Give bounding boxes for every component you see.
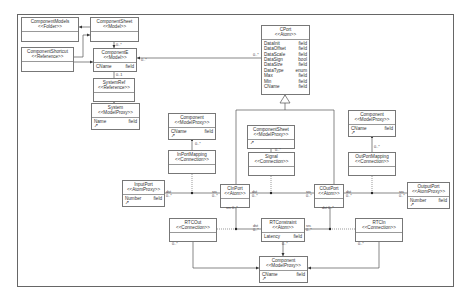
attribute-type: field: [129, 119, 137, 124]
class-header: RTCIn<<Connection>>: [356, 219, 402, 233]
proxy-arrow-icon: ↗: [125, 201, 162, 205]
class-stereotype: <<Connection>>: [357, 225, 401, 230]
class-stereotype: <<Connection>>: [350, 159, 394, 164]
class-header: Component<<ModelProxy>>: [260, 257, 307, 271]
multiplicity-label: 0..*: [306, 228, 312, 232]
multiplicity-label: 0..*: [306, 194, 312, 198]
class-coutport[interactable]: COutPort<<Atom>>: [314, 184, 344, 208]
class-componentmodels[interactable]: ComponentModels<<Folder>>: [21, 17, 79, 42]
multiplicity-label: 0..*: [275, 148, 281, 152]
class-systemref[interactable]: SystemRef<<Reference>>: [93, 78, 135, 102]
attribute-name: Latency: [264, 234, 280, 239]
class-header: SystemRef<<Reference>>: [94, 79, 134, 93]
multiplicity-label: 0..*: [252, 194, 258, 198]
attribute-name: CName: [264, 84, 280, 89]
class-stereotype: <<Atom>>: [263, 32, 308, 37]
class-header: InputPort<<AtomProxy>>: [123, 181, 164, 195]
multiplicity-label: 0..*: [195, 142, 201, 146]
class-rtcin[interactable]: RTCIn<<Connection>>: [355, 218, 403, 242]
attribute-type: field: [439, 198, 447, 203]
class-stereotype: <<Reference>>: [95, 85, 133, 90]
class-header: ComponentShortcut<<Reference>>: [22, 48, 73, 62]
class-stereotype: <<Connection>>: [171, 225, 215, 230]
class-componentsheet_mp[interactable]: ComponentSheet<<ModelProxy>>↗: [247, 125, 295, 149]
class-componentsheet_model[interactable]: ComponentSheet<<Model>>: [90, 17, 139, 42]
multiplicity-label: 0..*: [253, 53, 259, 57]
class-stereotype: <<ModelProxy>>: [93, 110, 138, 115]
class-attributes: Numberfield↗: [408, 197, 449, 208]
multiplicity-label: dst 0..*: [322, 206, 334, 210]
proxy-arrow-icon: ↗: [262, 277, 305, 281]
class-attributes: [349, 167, 395, 175]
class-rtcout[interactable]: RTCOut<<Connection>>: [169, 218, 217, 242]
multiplicity-label: src 0..*: [226, 206, 238, 210]
class-attributes: ↗: [248, 140, 294, 148]
multiplicity-label: 0..*: [172, 242, 178, 246]
class-component_mp_right[interactable]: Component<<ModelProxy>>CNamefield↗: [348, 110, 396, 137]
class-stereotype: <<Atom>>: [222, 191, 248, 196]
class-header: OutPortMapping<<Connection>>: [349, 153, 395, 167]
attribute-row: CNamefield: [264, 84, 307, 89]
class-attributes: Numberfield↗: [123, 195, 164, 206]
class-header: ComponentSheet<<Model>>: [91, 18, 138, 32]
class-outportmapping[interactable]: OutPortMapping<<Connection>>: [348, 152, 396, 176]
class-component_mp_left[interactable]: Component<<ModelProxy>>CNamefield↗: [168, 113, 216, 140]
class-attributes: [22, 62, 73, 70]
class-attributes: Namefield↗: [92, 118, 139, 129]
class-cport[interactable]: CPort<<Atom>>DataInitfieldDataOffsetfiel…: [261, 25, 310, 95]
class-attributes: [94, 93, 134, 101]
class-stereotype: <<Connection>>: [170, 157, 214, 162]
class-header: System<<ModelProxy>>: [92, 104, 139, 118]
class-attributes: CNamefield↗: [169, 128, 215, 139]
class-componentshortcut[interactable]: ComponentShortcut<<Reference>>: [21, 47, 74, 72]
class-stereotype: <<Folder>>: [23, 24, 77, 29]
class-stereotype: <<ModelProxy>>: [170, 120, 214, 125]
class-header: Signal<<Connection>>: [249, 153, 294, 167]
class-attributes: [356, 233, 402, 241]
multiplicity-label: 0..1: [116, 73, 122, 77]
class-cinport[interactable]: CInPort<<Atom>>: [220, 184, 250, 208]
class-header: RTCOut<<Connection>>: [170, 219, 216, 233]
class-header: RTConstraint<<Atom>>: [262, 219, 304, 233]
multiplicity-label: 0..*: [399, 194, 405, 198]
attribute-type: field: [297, 272, 305, 277]
multiplicity-label: 0..*: [253, 228, 259, 232]
class-rtconstraint[interactable]: RTConstraint<<Atom>>Latencyfield: [261, 218, 305, 242]
class-header: COutPort<<Atom>>: [315, 185, 343, 199]
multiplicity-label: 0..*: [166, 194, 172, 198]
proxy-arrow-icon: ↗: [351, 131, 393, 135]
proxy-arrow-icon: ↗: [94, 124, 137, 128]
class-header: OutputPort<<AtomProxy>>: [408, 183, 449, 197]
proxy-arrow-icon: ↗: [410, 203, 447, 207]
class-header: ComponentSheet<<ModelProxy>>: [248, 126, 294, 140]
class-attributes: [22, 32, 78, 40]
class-attributes: [91, 32, 138, 40]
class-attributes: CNamefield: [94, 63, 136, 71]
class-attributes: [170, 233, 216, 241]
class-attributes: CNamefield↗: [260, 271, 307, 282]
connector-layer: [0, 0, 469, 303]
class-stereotype: <<Atom>>: [263, 225, 303, 230]
class-signal[interactable]: Signal<<Connection>>: [248, 152, 295, 176]
multiplicity-label: 0..*: [116, 43, 122, 47]
class-component_model[interactable]: ComponentE<<Model>>CNamefield: [93, 48, 137, 72]
multiplicity-label: 0..*: [346, 194, 352, 198]
class-inportmapping[interactable]: InPortMapping<<Connection>>: [168, 150, 216, 174]
multiplicity-label: 0..*: [282, 242, 288, 246]
class-stereotype: <<Atom>>: [316, 191, 342, 196]
class-header: CInPort<<Atom>>: [221, 185, 249, 199]
class-outputport[interactable]: OutputPort<<AtomProxy>>Numberfield↗: [407, 182, 450, 209]
attribute-type: field: [294, 234, 302, 239]
class-system[interactable]: System<<ModelProxy>>Namefield↗: [91, 103, 140, 130]
attribute-type: field: [126, 64, 134, 69]
class-component_mp_bottom[interactable]: Component<<ModelProxy>>CNamefield↗: [259, 256, 308, 283]
class-stereotype: <<Connection>>: [250, 159, 293, 164]
attribute-row: Latencyfield: [264, 234, 302, 239]
class-stereotype: <<ModelProxy>>: [249, 132, 293, 137]
class-header: Component<<ModelProxy>>: [169, 114, 215, 128]
class-stereotype: <<AtomProxy>>: [124, 187, 163, 192]
class-stereotype: <<Model>>: [95, 55, 135, 60]
class-attributes: [249, 167, 294, 175]
class-inputport[interactable]: InputPort<<AtomProxy>>Numberfield↗: [122, 180, 165, 207]
class-attributes: CNamefield↗: [349, 125, 395, 136]
